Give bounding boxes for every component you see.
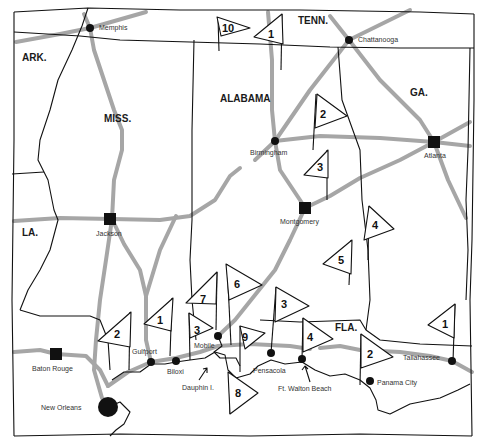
georgia-east-border xyxy=(466,48,470,300)
svg-text:3: 3 xyxy=(317,161,323,173)
state-label-alabama: ALABAMA xyxy=(220,93,271,104)
state-label-ark: ARK. xyxy=(22,52,47,63)
city-label-baton-rouge: Baton Rouge xyxy=(32,365,73,373)
city-square-baton-rouge xyxy=(50,348,62,360)
city-label-jackson: Jackson xyxy=(96,230,122,237)
state-label-tenn: TENN. xyxy=(298,15,328,26)
svg-text:4: 4 xyxy=(307,331,314,343)
city-label-dauphin-island: Dauphin I. xyxy=(182,384,214,392)
tenn-border xyxy=(14,32,474,48)
city-label-chattanooga: Chattanooga xyxy=(358,36,398,44)
flag-marker: 8 xyxy=(228,372,258,414)
svg-text:10: 10 xyxy=(222,22,234,34)
city-dot-birmingham xyxy=(271,137,279,145)
city-dot-ft-walton-beach xyxy=(298,355,306,363)
svg-text:1: 1 xyxy=(268,28,274,40)
flag-marker: 1 xyxy=(428,304,455,361)
city-square-atlanta xyxy=(428,136,440,148)
svg-text:3: 3 xyxy=(281,298,287,310)
city-dot-chattanooga xyxy=(345,36,353,44)
city-label-ft-walton-beach: Ft. Walton Beach xyxy=(278,385,332,392)
state-borders xyxy=(12,8,474,436)
state-label-fla: FLA. xyxy=(335,322,357,333)
flag-marker: 2 xyxy=(98,312,131,370)
city-dot-biloxi xyxy=(172,357,180,365)
city-dot-gulfport xyxy=(147,358,155,366)
ark-la-border xyxy=(12,172,44,174)
city-dot-panama-city xyxy=(366,377,374,385)
svg-text:2: 2 xyxy=(367,348,373,360)
highway-jackson-east xyxy=(14,168,240,221)
flag-marker: 4 xyxy=(302,318,333,359)
svg-text:4: 4 xyxy=(372,219,379,231)
state-label-ga: GA. xyxy=(410,87,428,98)
arrow-icon-dauphin xyxy=(199,368,207,380)
city-label-panama-city: Panama City xyxy=(377,379,418,387)
city-square-montgomery xyxy=(299,202,311,214)
map-frame-bottom xyxy=(14,434,472,436)
city-label-pensacola: Pensacola xyxy=(253,367,286,374)
city-dot-memphis xyxy=(86,24,94,32)
city-label-atlanta: Atlanta xyxy=(424,152,446,159)
svg-text:5: 5 xyxy=(338,254,344,266)
highways xyxy=(14,10,472,407)
svg-text:7: 7 xyxy=(200,293,206,305)
city-label-mobile: Mobile xyxy=(194,342,215,349)
highway-east-miss-south xyxy=(146,216,176,296)
svg-text:3: 3 xyxy=(194,324,200,336)
flag-marker: 3 xyxy=(304,150,328,200)
city-label-montgomery: Montgomery xyxy=(280,218,319,226)
city-label-new-orleans: New Orleans xyxy=(41,404,82,411)
regional-map: ARK. TENN. MISS. ALABAMA GA. LA. FLA. 10… xyxy=(0,0,488,444)
svg-text:1: 1 xyxy=(442,318,448,330)
city-dot-mobile xyxy=(214,332,222,340)
mobile-bay xyxy=(214,336,240,366)
map-frame-left xyxy=(12,12,14,436)
city-dot-tallahassee xyxy=(448,357,456,365)
svg-text:2: 2 xyxy=(320,108,326,120)
flag-marker: 10 xyxy=(217,17,250,51)
city-label-tallahassee: Tallahassee xyxy=(403,354,440,361)
svg-text:2: 2 xyxy=(114,328,120,340)
city-label-biloxi: Biloxi xyxy=(167,368,184,375)
svg-text:8: 8 xyxy=(235,387,241,399)
svg-text:6: 6 xyxy=(234,278,240,290)
state-label-la: LA. xyxy=(22,227,38,238)
city-dot-pensacola xyxy=(267,349,275,357)
arrow-icon-ft-walton xyxy=(302,366,310,382)
flag-marker: 5 xyxy=(323,240,352,285)
flag-marker: 2 xyxy=(360,334,393,385)
city-square-jackson xyxy=(104,213,116,225)
city-markers xyxy=(50,24,456,417)
city-label-memphis: Memphis xyxy=(99,24,128,32)
city-label-gulfport: Gulfport xyxy=(132,348,157,356)
flag-marker: 4 xyxy=(364,206,394,260)
city-dot-new-orleans xyxy=(98,397,118,417)
svg-text:9: 9 xyxy=(242,331,248,343)
svg-text:1: 1 xyxy=(157,314,163,326)
city-label-birmingham: Birmingham xyxy=(250,149,288,157)
highway-memphis-jackson-neworleans xyxy=(84,14,122,407)
state-label-miss: MISS. xyxy=(104,113,131,124)
flag-marker: 2 xyxy=(313,94,347,150)
